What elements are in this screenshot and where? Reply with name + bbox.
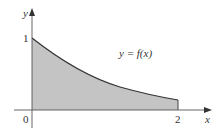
x-axis-label: x bbox=[204, 113, 210, 125]
y-tick-label-1: 1 bbox=[23, 32, 29, 44]
plot-svg: y 1 0 2 x y = f(x) bbox=[0, 0, 220, 133]
shaded-area bbox=[32, 38, 178, 110]
y-axis-arrow-icon bbox=[29, 8, 35, 16]
curve-label: y = f(x) bbox=[118, 47, 152, 60]
area-under-curve-figure: y 1 0 2 x y = f(x) bbox=[0, 0, 220, 133]
y-axis-label: y bbox=[22, 7, 28, 19]
origin-label: 0 bbox=[23, 113, 29, 125]
x-tick-label-2: 2 bbox=[175, 113, 181, 125]
